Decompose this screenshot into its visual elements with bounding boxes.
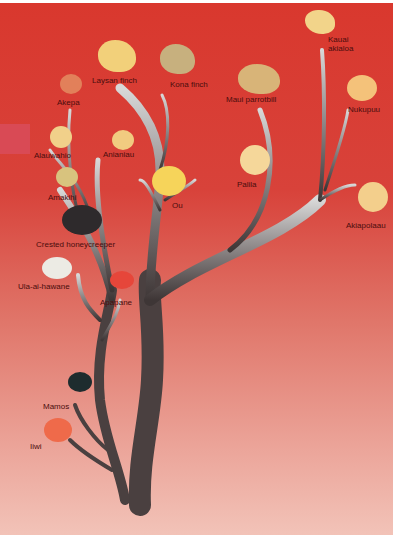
label-laysan-finch: Laysan finch xyxy=(92,76,137,85)
label-kona-finch: Kona finch xyxy=(170,80,208,89)
label-maui-parrotbill: Maui parrotbill xyxy=(226,95,276,104)
palila-head-icon xyxy=(240,145,270,175)
label-akepa: Akepa xyxy=(57,98,80,107)
laysan-finch-head-icon xyxy=(98,40,136,72)
label-line: akialoa xyxy=(328,44,353,53)
apapane-head-icon xyxy=(110,271,134,289)
label-nukupuu: Nukupuu xyxy=(348,105,380,114)
label-iiwi: Iiwi xyxy=(30,442,42,451)
label-apapane: Apapane xyxy=(100,298,132,307)
mamos-head-icon xyxy=(68,372,92,392)
label-kauai-akialoa: Kauai akialoa xyxy=(328,35,353,53)
tree-branches xyxy=(50,50,355,505)
akepa-head-icon xyxy=(60,74,82,94)
akiapolaau-head-icon xyxy=(358,182,388,212)
alauwahio-head-icon xyxy=(50,126,72,148)
crested-honeycreeper-head-icon xyxy=(62,205,102,235)
label-alauwahio: Alauwahio xyxy=(34,151,71,160)
label-palila: Palila xyxy=(237,180,257,189)
label-mamos: Mamos xyxy=(43,402,69,411)
label-akiapolaau: Akiapolaau xyxy=(346,221,386,230)
ou-head-icon xyxy=(152,166,186,196)
amakihi-head-icon xyxy=(56,167,78,187)
label-ula-ai-hawane: Ula-ai-hawane xyxy=(18,282,70,291)
maui-parrotbill-head-icon xyxy=(238,64,280,94)
iiwi-head-icon xyxy=(44,418,72,442)
kona-finch-head-icon xyxy=(160,44,195,74)
ula-ai-hawane-head-icon xyxy=(42,257,72,279)
label-line: Kauai xyxy=(328,35,353,44)
anianiau-head-icon xyxy=(112,130,134,150)
nukupuu-head-icon xyxy=(347,75,377,101)
label-ou: Ou xyxy=(172,201,183,210)
label-amakihi: Amakihi xyxy=(48,193,76,202)
label-anianiau: Anianiau xyxy=(103,150,134,159)
label-crested-honeycreeper: Crested honeycreeper xyxy=(36,240,115,249)
